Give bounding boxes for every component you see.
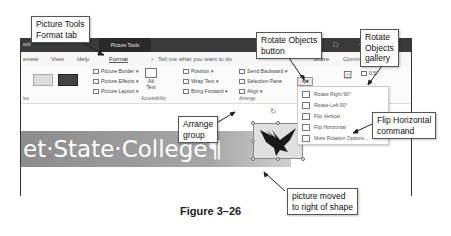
callout-format-tab: Picture Tools Format tab [31, 16, 90, 43]
callout-arrange-group: Arrange group [178, 116, 218, 143]
callout-rotate-gallery: Rotate Objects gallery [360, 29, 399, 67]
callout-flip-horizontal: Flip Horizontal command [372, 112, 436, 139]
callout-picture-moved: picture moved to right of shape [287, 188, 358, 215]
callout-rotate-button: Rotate Objects button [256, 32, 322, 59]
figure-caption: Figure 3–26 [180, 205, 241, 217]
